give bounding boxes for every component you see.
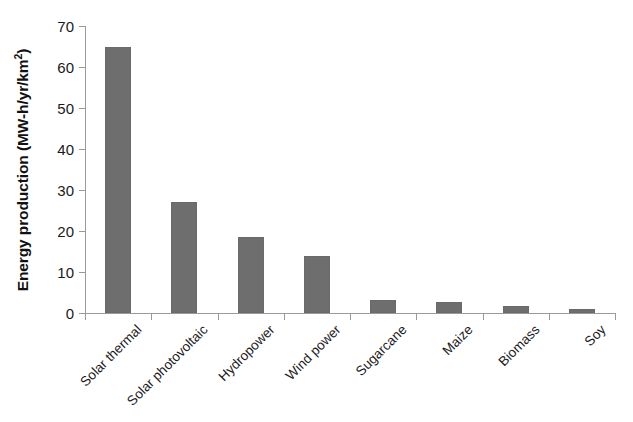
- x-axis-tick-label-text: Hydropower: [215, 322, 277, 384]
- y-axis-tick-label: 50: [36, 100, 74, 117]
- x-axis-tick-label-text: Maize: [440, 322, 476, 358]
- x-axis-tick-label-text: Solar thermal: [77, 322, 144, 389]
- bar: [569, 309, 595, 313]
- x-axis-tick-label-text: Sugarcane: [353, 322, 410, 379]
- y-axis-tick-label: 60: [36, 59, 74, 76]
- y-axis-title: Energy production (MW-h/yr/km2): [0, 0, 46, 340]
- y-axis-title-text: Energy production (MW-h/yr/km2): [14, 49, 32, 292]
- y-axis-tick-label: 0: [36, 305, 74, 322]
- y-axis-tick-label: 20: [36, 223, 74, 240]
- y-axis-tick-label: 30: [36, 182, 74, 199]
- bar-chart-figure: Energy production (MW-h/yr/km2) 01020304…: [0, 0, 633, 422]
- x-axis-tick-label-text: Wind power: [282, 322, 343, 383]
- bar: [436, 302, 462, 313]
- y-axis-tick-label: 70: [36, 18, 74, 35]
- plot-area: [85, 26, 615, 313]
- x-axis-tick-mark: [85, 313, 86, 320]
- y-axis-title-main: Energy production (MW-h/yr/km: [14, 59, 31, 291]
- x-axis-tick-label-text: Soy: [581, 322, 608, 349]
- y-axis-title-tail: ): [14, 49, 31, 54]
- y-axis-tick-label: 10: [36, 264, 74, 281]
- bar: [105, 47, 131, 314]
- y-axis-title-superscript: 2: [12, 54, 24, 60]
- bar: [503, 306, 529, 313]
- x-axis-tick-label-text: Biomass: [495, 322, 542, 369]
- y-axis-tick-label: 40: [36, 141, 74, 158]
